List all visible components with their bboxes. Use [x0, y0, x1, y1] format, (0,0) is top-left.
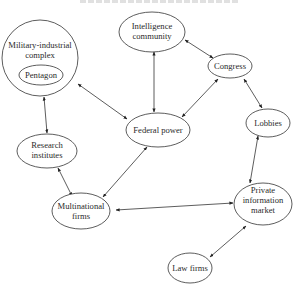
diagram-svg: Military-industrial complex Pentagon Int… — [0, 0, 303, 287]
node-label: Law firms — [172, 263, 208, 273]
node-label: Pentagon — [25, 70, 58, 80]
edge-congress-federal — [182, 79, 218, 117]
node-label: Congress — [214, 61, 247, 71]
edge-multinational-private — [116, 203, 233, 210]
node-label: Military-industrial — [8, 40, 72, 50]
node-pentagon: Pentagon — [19, 65, 63, 85]
node-multinational-firms: Multinational firms — [52, 193, 110, 229]
edge-lobbies-private — [250, 136, 258, 183]
node-law-firms: Law firms — [168, 253, 212, 283]
diagram-canvas: Military-industrial complex Pentagon Int… — [0, 0, 303, 287]
node-label: complex — [25, 50, 55, 60]
node-label: Research — [31, 140, 63, 150]
edge-military-federal — [78, 84, 127, 119]
edge-military-research — [44, 97, 47, 133]
node-private-information-market: Private information market — [234, 183, 292, 225]
edge-federal-multinational — [103, 147, 147, 197]
node-label: market — [251, 205, 275, 215]
node-label: Lobbies — [254, 118, 282, 128]
node-label: Federal power — [133, 125, 183, 135]
edge-research-multinational — [58, 168, 72, 196]
node-federal-power: Federal power — [126, 113, 190, 147]
node-lobbies: Lobbies — [246, 109, 290, 137]
node-label: community — [132, 31, 172, 41]
edge-private-lawfirms — [210, 226, 246, 257]
node-label: Intelligence — [132, 21, 173, 31]
node-label: information — [243, 195, 284, 205]
node-label: institutes — [31, 150, 63, 160]
node-label: firms — [72, 211, 91, 221]
node-intelligence-community: Intelligence community — [119, 12, 185, 52]
edge-intelligence-congress — [185, 40, 213, 58]
node-label: Private — [251, 185, 276, 195]
node-congress: Congress — [208, 54, 252, 78]
node-research-institutes: Research institutes — [17, 134, 77, 168]
edge-congress-lobbies — [244, 79, 262, 108]
node-label: Multinational — [58, 201, 105, 211]
